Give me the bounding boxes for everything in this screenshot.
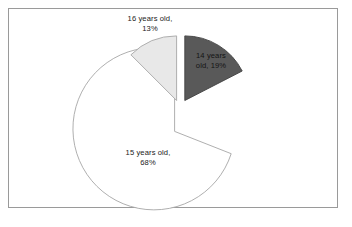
- pie-label-16-years-old: 16 years old, 13%: [103, 14, 197, 34]
- chart-plot-area: 16 years old, 13% 14 years old, 19% 15 y…: [0, 0, 352, 227]
- pie-label-14-years-old: 14 years old, 19%: [182, 51, 240, 71]
- pie-chart-graphic: [0, 0, 352, 227]
- pie-label-15-years-old: 15 years old, 68%: [101, 148, 195, 168]
